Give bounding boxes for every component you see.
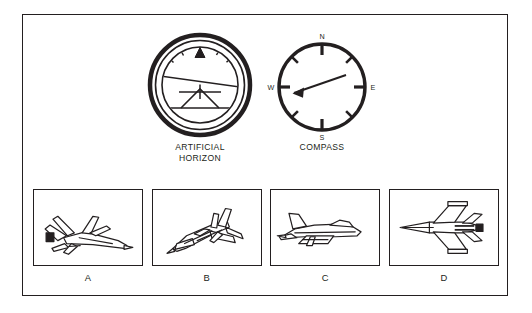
artificial-horizon-instrument: ARTIFICIAL HORIZON	[141, 29, 259, 164]
aircraft-label-b: B	[203, 272, 210, 283]
aircraft-drawing-c	[271, 190, 379, 265]
aircraft-cell-d: D	[389, 189, 499, 289]
compass-caption: COMPASS	[263, 142, 381, 153]
aircraft-drawing-d	[390, 190, 498, 265]
aircraft-panel-row: A	[33, 189, 499, 289]
aircraft-panel-c[interactable]	[270, 189, 380, 266]
aircraft-panel-a[interactable]	[33, 189, 143, 266]
compass-north-label: N	[319, 32, 324, 41]
aircraft-cell-a: A	[33, 189, 143, 289]
compass-instrument: N E S W COMPASS	[263, 29, 381, 153]
aircraft-label-a: A	[85, 272, 92, 283]
aircraft-drawing-a	[34, 190, 142, 265]
compass-east-label: E	[371, 83, 376, 92]
aircraft-panel-b[interactable]	[152, 189, 262, 266]
artificial-horizon-caption: ARTIFICIAL HORIZON	[141, 142, 259, 164]
artificial-horizon-icon	[141, 29, 259, 141]
figure-frame: ARTIFICIAL HORIZON	[22, 14, 508, 296]
aircraft-label-c: C	[322, 272, 329, 283]
aircraft-label-d: D	[440, 272, 447, 283]
instrument-row: ARTIFICIAL HORIZON	[23, 15, 509, 180]
aircraft-cell-b: B	[152, 189, 262, 289]
compass-icon: N E S W	[263, 29, 381, 141]
aircraft-panel-d[interactable]	[389, 189, 499, 266]
aircraft-cell-c: C	[270, 189, 380, 289]
aircraft-drawing-b	[153, 190, 261, 265]
compass-south-label: S	[320, 133, 325, 141]
compass-west-label: W	[268, 83, 275, 92]
